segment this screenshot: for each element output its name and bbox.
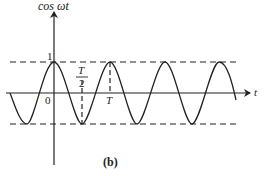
y-axis-label: cos ωt: [38, 0, 69, 13]
origin-label: 0: [45, 94, 51, 106]
cosine-diagram: cos ωt t 1 0 T 2 T (b): [0, 0, 265, 176]
x-axis-label: t: [254, 86, 258, 98]
amplitude-label: 1: [47, 50, 53, 62]
figure-caption: (b): [103, 155, 118, 169]
period-label: T: [106, 94, 113, 106]
half-period-numerator: T: [78, 64, 85, 76]
half-period-denominator: 2: [79, 77, 85, 89]
